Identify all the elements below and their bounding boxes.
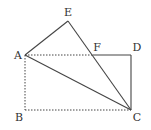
segment-ec <box>68 21 131 110</box>
label-c: C <box>133 111 141 124</box>
segment-ac <box>25 55 131 110</box>
label-d: D <box>133 41 142 54</box>
segment-ae <box>25 21 68 55</box>
label-a: A <box>13 49 23 62</box>
label-f: F <box>93 41 101 54</box>
geometry-diagram: A B C D E F <box>0 0 151 130</box>
point-labels: A B C D E F <box>13 6 142 124</box>
label-b: B <box>15 111 23 124</box>
solid-segments <box>25 21 131 110</box>
label-e: E <box>64 6 72 19</box>
